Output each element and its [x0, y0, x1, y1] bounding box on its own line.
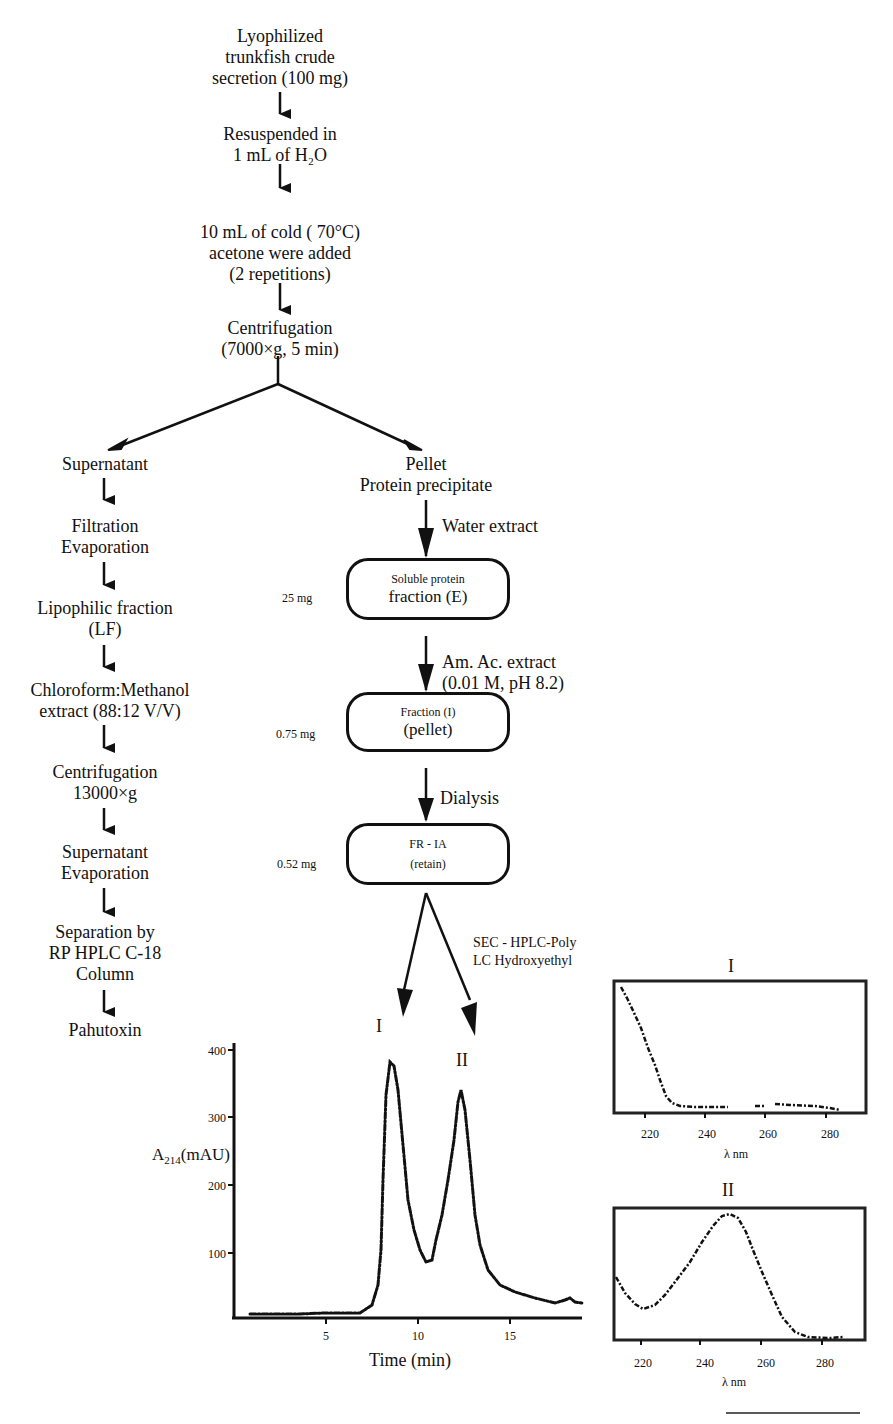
- svg-text:260: 260: [757, 1356, 775, 1370]
- svg-text:220: 220: [634, 1356, 652, 1370]
- svg-text:240: 240: [696, 1356, 714, 1370]
- svg-text:280: 280: [816, 1356, 834, 1370]
- spectrum-ii-plot: 220240 260280 λ nm: [0, 0, 893, 1424]
- svg-text:λ nm: λ nm: [722, 1375, 747, 1389]
